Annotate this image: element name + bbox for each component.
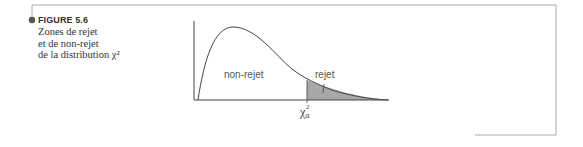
non-reject-label: non-rejet — [224, 69, 264, 80]
rejection-region — [307, 80, 388, 100]
chi-subscript: α — [305, 111, 310, 120]
chi-superscript: 2 — [306, 103, 310, 111]
reject-label: rejet — [315, 69, 335, 80]
chi-square-chart: non-rejet rejet χα 2 — [0, 0, 583, 147]
density-curve — [198, 27, 388, 100]
